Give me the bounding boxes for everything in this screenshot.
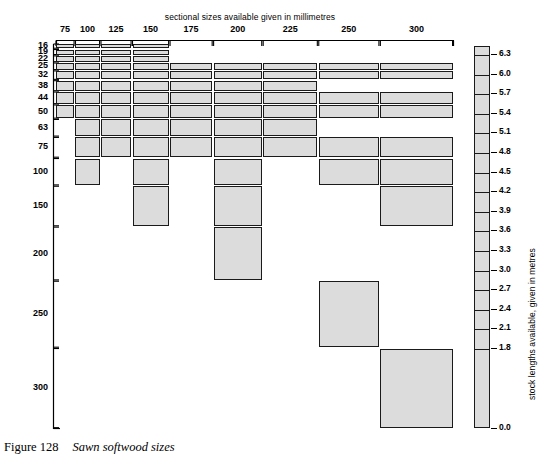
section-75x32 — [56, 71, 74, 79]
scale-label-3.6: 3.6 — [499, 224, 511, 234]
x-tick-label-200: 200 — [218, 24, 258, 34]
scale-tick-4.2 — [491, 191, 497, 192]
scale-segment-2.4 — [475, 310, 489, 311]
section-200x32 — [214, 71, 262, 79]
scale-segment-6.0 — [475, 75, 489, 76]
section-150x25 — [133, 63, 169, 70]
section-75x25 — [56, 63, 74, 70]
scale-segment-4.5 — [475, 173, 489, 174]
section-150x44 — [133, 92, 169, 104]
y-tick-label-100: 100 — [20, 166, 48, 176]
y-tick-label-50: 50 — [20, 106, 48, 116]
section-size-matrix — [56, 44, 454, 429]
section-200x75 — [214, 137, 262, 157]
scale-label-6.3: 6.3 — [499, 48, 511, 58]
scale-tick-4.5 — [491, 172, 497, 173]
section-300x25 — [380, 63, 452, 70]
section-150x150 — [133, 186, 169, 226]
section-150x38 — [133, 81, 169, 91]
section-300x150 — [380, 186, 452, 226]
scale-segment-2.7 — [475, 290, 489, 291]
y-axis-tick-labels: 16192225323844506375100150200250300 — [18, 0, 48, 464]
scale-segment-2.1 — [475, 329, 489, 330]
section-100x75 — [75, 137, 99, 157]
section-100x16 — [75, 44, 99, 48]
y-tick-label-63: 63 — [20, 122, 48, 132]
scale-label-0.0: 0.0 — [499, 422, 511, 432]
section-300x100 — [380, 159, 452, 185]
scale-tick-5.7 — [491, 93, 497, 94]
scale-tick-2.4 — [491, 309, 497, 310]
section-150x32 — [133, 71, 169, 79]
x-tick-label-175: 175 — [171, 24, 211, 34]
section-150x16 — [133, 44, 169, 48]
section-150x19 — [133, 50, 169, 55]
section-125x16 — [101, 44, 131, 48]
x-tick-label-225: 225 — [270, 24, 310, 34]
section-250x75 — [319, 137, 379, 157]
section-75x50 — [56, 105, 74, 118]
section-300x44 — [380, 92, 452, 104]
section-225x75 — [263, 137, 317, 157]
section-75x38 — [56, 81, 74, 91]
x-tick-label-300: 300 — [396, 24, 436, 34]
section-100x32 — [75, 71, 99, 79]
scale-label-2.4: 2.4 — [499, 303, 511, 313]
scale-segment-1.8 — [475, 349, 489, 350]
section-75x22 — [56, 56, 74, 62]
scale-tick-6.0 — [491, 74, 497, 75]
y-tick-label-44: 44 — [20, 92, 48, 102]
scale-tick-5.4 — [491, 113, 497, 114]
scale-tick-2.7 — [491, 289, 497, 290]
section-200x200 — [214, 227, 262, 280]
x-axis-title: sectional sizes available given in milli… — [60, 12, 440, 22]
section-125x63 — [101, 119, 131, 136]
section-100x25 — [75, 63, 99, 70]
length-scale-bar — [474, 46, 490, 428]
section-250x50 — [319, 105, 379, 118]
scale-segment-4.8 — [475, 153, 489, 154]
section-250x32 — [319, 71, 379, 79]
scale-segment-5.1 — [475, 133, 489, 134]
scale-tick-3.6 — [491, 230, 497, 231]
scale-tick-1.8 — [491, 348, 497, 349]
section-125x75 — [101, 137, 131, 157]
scale-tick-4.8 — [491, 152, 497, 153]
y-tick-label-38: 38 — [20, 80, 48, 90]
section-125x32 — [101, 71, 131, 79]
caption-text: Sawn softwood sizes — [73, 440, 175, 454]
section-125x22 — [101, 56, 131, 62]
section-100x22 — [75, 56, 99, 62]
scale-segment-3.6 — [475, 231, 489, 232]
section-200x38 — [214, 81, 262, 91]
section-250x44 — [319, 92, 379, 104]
scale-segment-4.2 — [475, 192, 489, 193]
scale-segment-6.3 — [475, 55, 489, 56]
scale-label-6.0: 6.0 — [499, 68, 511, 78]
scale-label-1.8: 1.8 — [499, 342, 511, 352]
section-150x22 — [133, 56, 169, 62]
section-200x150 — [214, 186, 262, 226]
section-200x25 — [214, 63, 262, 70]
section-150x63 — [133, 119, 169, 136]
scale-label-4.8: 4.8 — [499, 146, 511, 156]
scale-tick-0.0 — [491, 428, 497, 429]
section-250x25 — [319, 63, 379, 70]
section-175x25 — [170, 63, 212, 70]
y-tick-label-150: 150 — [20, 200, 48, 210]
figure-sawn-softwood-sizes: sectional sizes available given in milli… — [0, 0, 559, 464]
section-175x75 — [170, 137, 212, 157]
section-75x44 — [56, 92, 74, 104]
scale-label-4.2: 4.2 — [499, 185, 511, 195]
section-125x44 — [101, 92, 131, 104]
scale-tick-6.3 — [491, 54, 497, 55]
scale-tick-2.1 — [491, 328, 497, 329]
section-125x38 — [101, 81, 131, 91]
scale-tick-5.1 — [491, 132, 497, 133]
scale-label-5.4: 5.4 — [499, 107, 511, 117]
figure-caption: Figure 128Sawn softwood sizes — [4, 440, 175, 455]
section-75x19 — [56, 50, 74, 55]
section-125x25 — [101, 63, 131, 70]
x-tick-label-150: 150 — [131, 24, 171, 34]
scale-label-3.0: 3.0 — [499, 264, 511, 274]
